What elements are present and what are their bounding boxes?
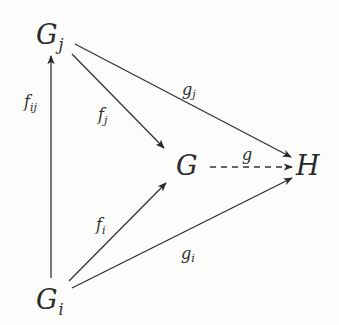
node-Gi: Gi: [36, 284, 64, 319]
node-G: G: [176, 150, 198, 181]
label-gj: gj: [182, 80, 196, 101]
node-H: H: [295, 150, 320, 181]
diagram-svg: Gj Gi G H fij fj gj fi gi g: [0, 0, 339, 325]
label-gi: gi: [181, 244, 195, 265]
edge-gj-arrow: [75, 44, 291, 157]
label-fi: fi: [95, 215, 105, 237]
label-g: g: [242, 145, 252, 164]
commutative-diagram: Gj Gi G H fij fj gj fi gi g: [0, 0, 339, 325]
label-fij: fij: [23, 92, 37, 114]
label-fj: fj: [97, 105, 108, 127]
node-Gj: Gj: [36, 19, 64, 54]
edge-fi-arrow: [69, 183, 166, 281]
edge-fj-arrow: [72, 54, 164, 148]
